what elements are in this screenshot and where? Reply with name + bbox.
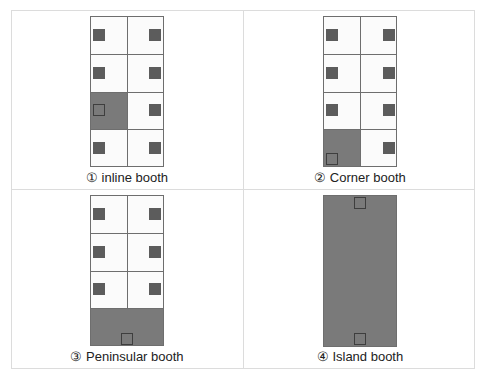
grid-line — [324, 54, 396, 55]
horizontal-divider — [11, 189, 475, 190]
grid-line — [91, 92, 163, 93]
booth-marker-top — [354, 197, 366, 209]
booth-marker — [149, 142, 161, 154]
booth-marker — [383, 104, 395, 116]
booth-marker — [149, 246, 161, 258]
booth-marker — [326, 104, 338, 116]
grid-line — [127, 196, 128, 309]
booth-marker — [326, 67, 338, 79]
grid-line — [91, 54, 163, 55]
booth-marker — [93, 246, 105, 258]
grid-line — [91, 233, 163, 234]
grid-line — [91, 129, 163, 130]
panel-label: ② Corner booth — [280, 170, 440, 185]
grid-line — [91, 271, 163, 272]
booth-marker — [149, 283, 161, 295]
booth-marker-highlighted — [326, 153, 338, 165]
booth-marker — [149, 29, 161, 41]
booth-marker — [149, 208, 161, 220]
booth-marker-highlighted — [93, 104, 105, 116]
booth-marker-highlighted — [121, 333, 133, 345]
booth-marker — [383, 29, 395, 41]
booth-marker — [93, 208, 105, 220]
booth-marker — [93, 67, 105, 79]
grid-line — [324, 92, 396, 93]
panel-label: ④ Island booth — [280, 349, 440, 364]
booth-marker — [93, 142, 105, 154]
booth-marker — [383, 67, 395, 79]
booth-marker — [149, 67, 161, 79]
booth-marker — [93, 29, 105, 41]
booth-marker — [93, 283, 105, 295]
booth-marker — [383, 142, 395, 154]
booth-marker-bottom — [354, 333, 366, 345]
booth-marker — [326, 29, 338, 41]
panel-label: ① inline booth — [47, 170, 207, 185]
island-booth-block — [323, 195, 397, 347]
booth-marker — [149, 104, 161, 116]
grid-line — [324, 129, 396, 130]
panel-label: ③ Peninsular booth — [47, 349, 207, 364]
grid-line — [91, 308, 163, 309]
